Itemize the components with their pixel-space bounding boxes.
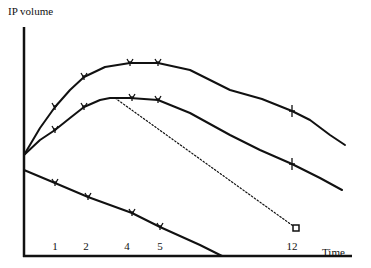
cross-marker-icon xyxy=(289,158,295,170)
x-tick-1: 1 xyxy=(52,241,58,252)
curves-group xyxy=(24,59,345,256)
x-tick-4: 4 xyxy=(124,241,130,252)
upper-curve xyxy=(24,63,345,155)
x-tick-5: 5 xyxy=(157,241,163,252)
x-tick-2: 2 xyxy=(83,241,89,252)
x-tick-12: 12 xyxy=(287,241,298,252)
dotted-projection xyxy=(115,98,296,228)
x-axis-label: Time xyxy=(322,247,345,258)
cross-marker-icon xyxy=(289,105,295,117)
square-marker-icon xyxy=(293,225,299,231)
y-axis-label: IP volume xyxy=(8,6,53,17)
ip-volume-diagram xyxy=(0,0,371,268)
